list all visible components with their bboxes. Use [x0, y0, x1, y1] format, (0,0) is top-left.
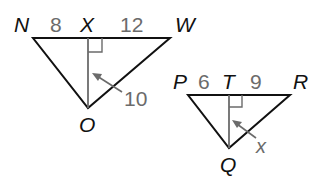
vertex-label-n: N	[14, 13, 30, 36]
segment-label-pt: 6	[198, 70, 210, 93]
vertex-label-t: T	[222, 70, 237, 93]
altitude-label-10: 10	[124, 87, 147, 110]
vertex-label-p: P	[173, 70, 187, 93]
vertex-label-q: Q	[220, 153, 236, 176]
vertex-label-x: X	[79, 13, 95, 36]
altitude-label-x: x	[255, 135, 267, 157]
right-angle-mark-t	[229, 95, 242, 107]
vertex-label-o: O	[79, 113, 95, 136]
right-angle-mark-x	[88, 38, 102, 52]
segment-label-nx: 8	[50, 13, 62, 36]
vertex-label-w: W	[175, 13, 197, 36]
arrow-10-head	[92, 73, 102, 81]
vertex-label-r: R	[293, 70, 308, 93]
similar-triangles-diagram: N 8 X 12 W 10 O P 6 T 9 R x Q	[0, 0, 315, 192]
segment-label-tr: 9	[250, 70, 262, 93]
segment-label-xw: 12	[120, 13, 143, 36]
triangle-prq: P 6 T 9 R x Q	[173, 70, 308, 176]
triangle-nwo: N 8 X 12 W 10 O	[14, 13, 197, 136]
